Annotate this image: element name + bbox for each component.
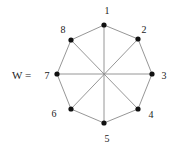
edge-7-8 — [57, 40, 71, 74]
vertex-label-4: 4 — [149, 109, 154, 120]
graph-name-label: W = — [12, 69, 31, 81]
edge-4-5 — [104, 109, 138, 123]
edge-3-4 — [138, 74, 152, 109]
vertex-7 — [54, 71, 59, 76]
edge-8-1 — [71, 25, 104, 40]
vertex-3 — [149, 71, 154, 76]
edge-6-7 — [57, 74, 71, 109]
vertex-1 — [101, 22, 106, 27]
vertex-label-7: 7 — [45, 70, 50, 81]
vertex-2 — [135, 36, 140, 41]
vertex-5 — [101, 120, 106, 125]
graph-canvas: W = 12345678 — [0, 0, 173, 147]
vertex-label-1: 1 — [105, 5, 110, 16]
edge-2-3 — [138, 39, 152, 74]
vertex-label-2: 2 — [142, 24, 147, 35]
edge-1-2 — [104, 25, 138, 39]
vertex-4 — [135, 106, 140, 111]
vertex-label-3: 3 — [162, 70, 167, 81]
edge-5-6 — [71, 109, 104, 123]
vertex-6 — [68, 106, 73, 111]
vertex-label-8: 8 — [61, 24, 66, 35]
wagner-graph-diagram: W = 12345678 — [0, 0, 173, 147]
vertex-8 — [68, 37, 73, 42]
vertex-label-5: 5 — [105, 133, 110, 144]
vertex-label-6: 6 — [52, 108, 57, 119]
